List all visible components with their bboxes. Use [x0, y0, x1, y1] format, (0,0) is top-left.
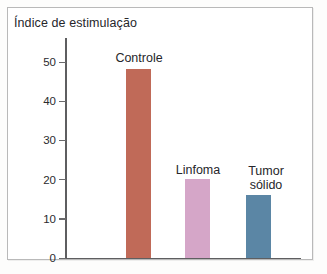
bar-tumor-solido — [246, 195, 271, 258]
y-tick-label-50: 50 — [22, 56, 56, 68]
y-tick-label-30: 30 — [22, 134, 56, 146]
y-tick-10 — [59, 218, 66, 219]
y-tick-20 — [59, 179, 66, 180]
y-tick-label-20: 20 — [22, 174, 56, 186]
y-tick-label-40: 40 — [22, 95, 56, 107]
bar-label-tumor-solido-line1: Tumor — [236, 164, 296, 178]
chart-title: Índice de estimulação — [14, 16, 137, 30]
y-tick-50 — [59, 62, 66, 63]
chart-screenshot: Índice de estimulação 50 40 30 20 10 0 — [0, 0, 327, 274]
y-tick-label-0: 0 — [22, 252, 56, 264]
y-tick-0 — [59, 258, 66, 259]
bar-label-controle: Controle — [98, 51, 180, 65]
y-axis-line — [65, 38, 67, 259]
y-tick-30 — [59, 140, 66, 141]
bar-label-linfoma: Linfoma — [157, 163, 239, 177]
plot-area: Índice de estimulação 50 40 30 20 10 0 — [0, 0, 327, 274]
bar-controle — [126, 69, 151, 257]
bar-linfoma — [185, 179, 210, 257]
bar-label-tumor-solido-line2: sólido — [236, 178, 296, 192]
x-axis-line — [65, 258, 301, 260]
y-tick-40 — [59, 101, 66, 102]
y-tick-label-10: 10 — [22, 213, 56, 225]
